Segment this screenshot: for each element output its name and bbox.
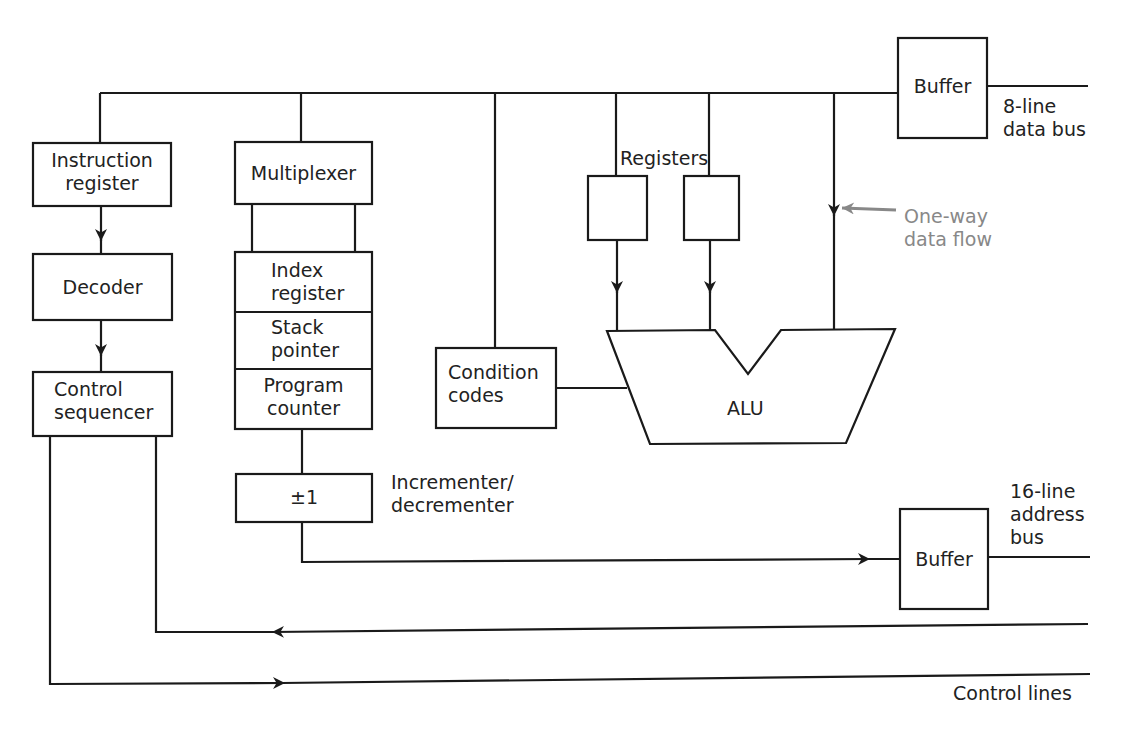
- label-line: Stack: [271, 316, 339, 339]
- label-line: Incrementer/: [391, 471, 514, 494]
- label-line: register: [33, 172, 171, 195]
- label-line: address: [1010, 503, 1085, 526]
- control-sequencer-label: Control sequencer: [54, 378, 153, 424]
- label-line: data flow: [904, 228, 992, 251]
- stack-pointer-label: Stack pointer: [271, 316, 339, 362]
- label-line: Index: [271, 259, 344, 282]
- program-counter-label: Program counter: [235, 374, 372, 420]
- label-line: Control: [54, 378, 153, 401]
- register-b-box: [684, 176, 739, 240]
- label-line: codes: [448, 384, 539, 407]
- label-line: bus: [1010, 526, 1085, 549]
- label-line: 8-line: [1003, 95, 1086, 118]
- one-way-data-flow-label: One-way data flow: [904, 205, 992, 251]
- data-bus-label: 8-line data bus: [1003, 95, 1086, 141]
- label-line: One-way: [904, 205, 992, 228]
- condition-codes-label: Condition codes: [448, 361, 539, 407]
- diagram-canvas: [0, 0, 1130, 729]
- control-lines-label: Control lines: [953, 682, 1072, 705]
- label-line: Condition: [448, 361, 539, 384]
- index-register-label: Index register: [271, 259, 344, 305]
- alu-shape: [607, 329, 895, 444]
- label-line: pointer: [271, 339, 339, 362]
- label-line: data bus: [1003, 118, 1086, 141]
- decoder-label: Decoder: [33, 276, 172, 299]
- label-line: sequencer: [54, 401, 153, 424]
- one-way-pointer-arrow: [842, 208, 896, 210]
- label-line: 16-line: [1010, 480, 1085, 503]
- label-line: Instruction: [33, 149, 171, 172]
- address-buffer-label: Buffer: [900, 548, 988, 571]
- data-buffer-label: Buffer: [898, 75, 987, 98]
- label-line: counter: [235, 397, 372, 420]
- address-bus-label: 16-line address bus: [1010, 480, 1085, 549]
- label-line: register: [271, 282, 344, 305]
- label-line: decrementer: [391, 494, 514, 517]
- register-a-box: [588, 176, 647, 240]
- incrementer-label: Incrementer/ decrementer: [391, 471, 514, 517]
- registers-label: Registers: [620, 147, 708, 170]
- alu-label: ALU: [727, 397, 764, 420]
- incrementer-symbol: ±1: [236, 486, 372, 509]
- multiplexer-label: Multiplexer: [235, 162, 372, 185]
- label-line: Program: [235, 374, 372, 397]
- instruction-register-label: Instruction register: [33, 149, 171, 195]
